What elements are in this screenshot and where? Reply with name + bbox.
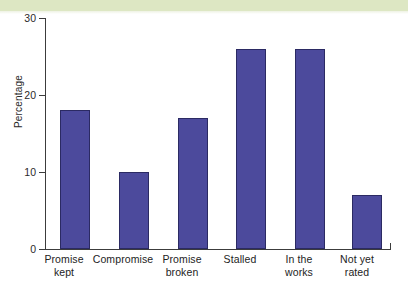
x-axis-label-stalled: Stalled (208, 253, 272, 266)
y-axis-tick-label-0: 0 (0, 243, 36, 255)
x-axis-label-promise-broken: Promise broken (150, 253, 214, 278)
x-axis-label-line-1: In the (267, 253, 331, 266)
x-axis-label-line-1: Promise (32, 253, 96, 266)
y-axis-tick-10 (39, 172, 45, 173)
x-axis-label-not-yet-rated: Not yet rated (325, 253, 389, 278)
x-axis-label-line-2: rated (325, 266, 389, 279)
x-axis-label-promise-kept: Promise kept (32, 253, 96, 278)
y-axis-tick-30 (39, 18, 45, 19)
x-axis-label-line-1: Compromise (88, 253, 158, 266)
x-axis-label-compromise: Compromise (88, 253, 158, 266)
chart-page: 0 10 20 30 Percentage Promise kept Compr… (0, 0, 408, 283)
y-axis-title: Percentage (13, 62, 24, 142)
x-axis-label-line-2: works (267, 266, 331, 279)
x-axis-label-line-1: Promise (150, 253, 214, 266)
x-axis-label-line-2: kept (32, 266, 96, 279)
y-axis-tick-label-30: 30 (0, 12, 36, 24)
bar-chart: 0 10 20 30 Percentage Promise kept Compr… (0, 0, 408, 283)
y-axis-tick-0 (39, 249, 45, 250)
bar-promise-kept (60, 110, 90, 249)
y-axis-tick-20 (39, 95, 45, 96)
x-axis-label-in-the-works: In the works (267, 253, 331, 278)
x-axis-label-line-1: Not yet (325, 253, 389, 266)
bar-promise-broken (178, 118, 208, 249)
bar-stalled (236, 49, 266, 249)
bar-compromise (119, 172, 149, 249)
y-axis-tick-label-10: 10 (0, 166, 36, 178)
bar-in-the-works (295, 49, 325, 249)
plot-area (46, 18, 391, 249)
bar-not-yet-rated (352, 195, 382, 249)
x-axis-label-line-1: Stalled (208, 253, 272, 266)
x-axis-label-line-2: broken (150, 266, 214, 279)
